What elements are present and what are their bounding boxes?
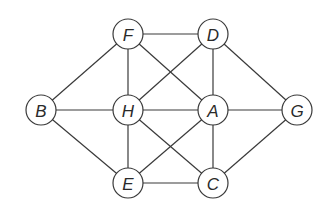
node-label: F xyxy=(123,26,135,45)
node-label: C xyxy=(207,175,220,194)
node-E: E xyxy=(113,168,143,198)
node-A: A xyxy=(198,95,228,125)
node-G: G xyxy=(282,95,312,125)
node-label: A xyxy=(206,102,218,121)
edge-F-B xyxy=(41,34,128,110)
node-B: B xyxy=(26,95,56,125)
node-H: H xyxy=(113,95,143,125)
node-F: F xyxy=(113,19,143,49)
edges-layer xyxy=(41,34,297,183)
edge-G-C xyxy=(213,110,297,183)
nodes-layer: FDBHAGEC xyxy=(26,19,312,198)
node-C: C xyxy=(198,168,228,198)
edge-B-E xyxy=(41,110,128,183)
node-label: B xyxy=(35,102,46,121)
node-D: D xyxy=(198,19,228,49)
graph-diagram: FDBHAGEC xyxy=(0,0,333,212)
node-label: G xyxy=(290,102,303,121)
node-label: E xyxy=(122,175,134,194)
node-label: H xyxy=(122,102,135,121)
node-label: D xyxy=(207,26,219,45)
edge-D-G xyxy=(213,34,297,110)
